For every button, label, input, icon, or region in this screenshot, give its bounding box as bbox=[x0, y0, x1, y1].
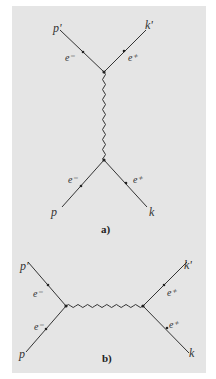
arrow-dot bbox=[80, 185, 83, 188]
feynman-diagrams: p' k' e⁻ e⁺ e⁻ e⁺ p k a) p' e⁻ e⁻ p k' e… bbox=[0, 0, 216, 379]
label-electron: e⁻ bbox=[33, 288, 43, 299]
label-k-prime: k' bbox=[184, 258, 192, 272]
label-p-prime: p' bbox=[19, 259, 29, 273]
label-positron: e⁺ bbox=[128, 52, 138, 63]
label-positron: e⁺ bbox=[169, 319, 179, 330]
label-p: p bbox=[18, 347, 25, 361]
fermion-line-bottom-right bbox=[143, 306, 189, 353]
label-electron: e⁻ bbox=[34, 321, 44, 332]
caption-b: b) bbox=[102, 352, 112, 365]
diagram-a-vertices bbox=[80, 50, 128, 188]
caption-a: a) bbox=[101, 223, 111, 236]
fermion-line-top-right bbox=[143, 262, 187, 306]
label-electron: e⁻ bbox=[68, 174, 78, 185]
label-k: k bbox=[189, 346, 195, 360]
diagram-b bbox=[26, 262, 189, 353]
arrow-dot bbox=[163, 284, 166, 287]
label-positron: e⁺ bbox=[167, 287, 177, 298]
diagram-b-vertices bbox=[45, 284, 169, 331]
label-k-prime: k' bbox=[145, 18, 153, 32]
label-k: k bbox=[149, 205, 155, 219]
fermion-line-top-left bbox=[28, 262, 66, 306]
arrow-dot bbox=[82, 51, 85, 54]
arrow-dot bbox=[125, 182, 128, 185]
arrow-dot bbox=[47, 284, 50, 287]
label-positron: e⁺ bbox=[133, 174, 143, 185]
label-p-prime: p' bbox=[52, 21, 62, 35]
vertex-top bbox=[102, 70, 105, 73]
vertex-right bbox=[141, 304, 144, 307]
label-electron: e⁻ bbox=[65, 52, 75, 63]
photon-propagator-horizontal bbox=[66, 305, 143, 308]
arrow-dot bbox=[123, 50, 126, 53]
arrow-dot bbox=[45, 328, 48, 331]
vertex-left bbox=[64, 304, 67, 307]
photon-propagator-vertical bbox=[103, 72, 106, 160]
fermion-line-top-left bbox=[60, 30, 104, 72]
vertex-bottom bbox=[102, 158, 105, 161]
arrow-dot bbox=[166, 327, 169, 330]
label-p: p bbox=[50, 205, 57, 219]
